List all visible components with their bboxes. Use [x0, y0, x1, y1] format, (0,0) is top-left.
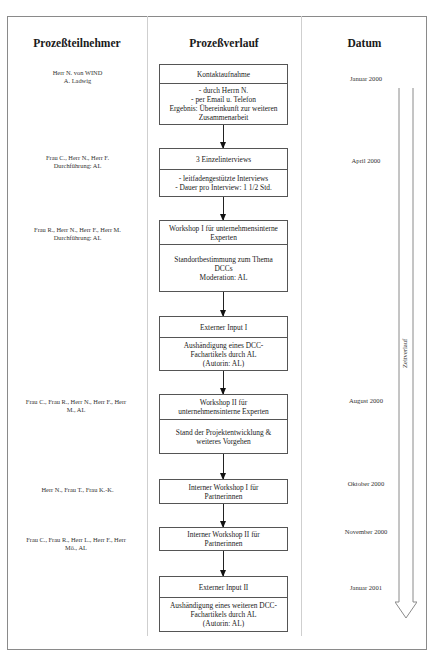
box-title-text: Partnerinnen	[205, 539, 243, 548]
box-title-text: Experten	[210, 233, 237, 242]
flow-arrow-7	[223, 551, 224, 576]
box-detail-line: Zusammenarbeit	[199, 113, 249, 122]
box-title-text: 3 Einzelinterviews	[196, 155, 251, 164]
process-box-workshop-2: Workshop II für unternehmensinterne Expe…	[159, 394, 288, 454]
box-detail-line: Standortbestimmung zum Thema	[174, 255, 272, 264]
box-title-text: Partnerinnen	[205, 492, 243, 501]
column-divider-right	[301, 16, 302, 636]
process-box-interner-workshop-2: Interner Workshop II für Partnerinnen	[159, 527, 288, 551]
box-title: Externer Input I	[160, 317, 287, 338]
box-detail-line: Fachartikels durch AL	[190, 610, 256, 619]
box-details: Aushändigung eines weiteren DCC- Fachart…	[160, 598, 287, 631]
box-title-text: Externer Input II	[199, 583, 249, 592]
box-title-text: Workshop II für	[200, 398, 247, 407]
box-detail-line: Fachartikels durch AL	[190, 350, 256, 359]
participants-step-6: Herr N., Frau T., Frau K.-K.	[20, 486, 135, 494]
box-details: Aushändigung eines DCC- Fachartikels dur…	[160, 338, 287, 370]
box-detail-line: (Autorin: AL)	[203, 359, 244, 368]
box-detail-line: Stand der Projektentwicklung &	[176, 428, 271, 437]
box-details: Standortbestimmung zum Thema DCCs Modera…	[160, 245, 287, 291]
box-details: - leitfadengestützte Interviews - Dauer …	[160, 170, 287, 196]
box-detail-line: Aushändigung eines weiteren DCC-	[170, 601, 277, 610]
column-header-date: Datum	[301, 37, 428, 49]
participants-line: Durchführung: AL	[20, 162, 135, 170]
participants-line: M., AL	[12, 406, 140, 414]
box-detail-line: Aushändigung eines DCC-	[184, 341, 264, 350]
participants-line: Frau C., Herr N., Herr F.	[20, 154, 135, 162]
participants-line: Frau C., Frau R., Herr L., Herr F., Herr	[12, 536, 140, 544]
flow-arrow-3	[223, 292, 224, 316]
box-title: Workshop I für unternehmensinterne Exper…	[160, 221, 287, 245]
flow-arrow-4	[223, 371, 224, 394]
box-detail-line: DCCs	[214, 264, 232, 273]
participants-line: Herr N., Frau T., Frau K.-K.	[20, 486, 135, 494]
timeline-label: Zeitverlauf	[400, 342, 410, 368]
participants-line: Frau C., Frau R., Herr N., Herr F., Herr	[12, 398, 140, 406]
flow-arrow-2	[223, 197, 224, 220]
participants-line: Mö., AL	[12, 544, 140, 552]
box-detail-line: (Autorin: AL)	[203, 619, 244, 628]
box-title: Workshop II für unternehmensinterne Expe…	[160, 395, 287, 420]
column-header-participants: Prozeßteilnehmer	[7, 37, 147, 49]
box-detail-line: - per Email u. Telefon	[191, 95, 256, 104]
participants-step-1: Herr N. von WIND A. Ladwig	[20, 69, 135, 85]
participants-step-5: Frau C., Frau R., Herr N., Herr F., Herr…	[12, 398, 140, 414]
box-detail-line: Moderation: AL	[200, 273, 248, 282]
participants-line: A. Ladwig	[20, 77, 135, 85]
process-box-workshop-1: Workshop I für unternehmensinterne Exper…	[159, 220, 288, 292]
process-box-externer-input-2: Externer Input II Aushändigung eines wei…	[159, 576, 288, 632]
box-title-text: Workshop I für unternehmensinterne	[169, 224, 278, 233]
process-box-externer-input-1: Externer Input I Aushändigung eines DCC-…	[159, 316, 288, 371]
participants-step-7: Frau C., Frau R., Herr L., Herr F., Herr…	[12, 536, 140, 552]
participants-line: Durchführung: AL	[20, 234, 135, 242]
participants-line: Frau R., Herr N., Herr F., Herr M.	[20, 226, 135, 234]
box-detail-line: - leitfadengestützte Interviews	[179, 174, 268, 183]
flow-arrow-6	[223, 504, 224, 527]
process-box-kontaktaufnahme: Kontaktaufnahme - durch Herrn N. - per E…	[159, 64, 288, 125]
participants-line: Herr N. von WIND	[20, 69, 135, 77]
flow-arrow-1	[223, 125, 224, 148]
column-divider-left	[147, 16, 148, 636]
box-title: 3 Einzelinterviews	[160, 149, 287, 170]
box-title-text: Interner Workshop I für	[188, 483, 258, 492]
box-detail-line: - durch Herrn N.	[199, 86, 248, 95]
box-title-text: Externer Input I	[200, 323, 247, 332]
date-step-1: Januar 2000	[306, 75, 426, 83]
box-title-text: Kontaktaufnahme	[197, 70, 250, 79]
flow-arrow-5	[223, 454, 224, 479]
box-details: - durch Herrn N. - per Email u. Telefon …	[160, 84, 287, 124]
box-detail-line: - Dauer pro Interview: 1 1/2 Std.	[175, 183, 272, 192]
box-detail-line: Ergebnis: Übereinkunft zur weiteren	[169, 104, 277, 113]
process-box-interner-workshop-1: Interner Workshop I für Partnerinnen	[159, 479, 288, 504]
box-title: Externer Input II	[160, 577, 287, 598]
box-title: Kontaktaufnahme	[160, 65, 287, 84]
process-box-einzelinterviews: 3 Einzelinterviews - leitfadengestützte …	[159, 148, 288, 197]
box-detail-line: weiteres Vorgehen	[196, 437, 250, 446]
box-title-text: Interner Workshop II für	[187, 530, 260, 539]
participants-step-3: Frau R., Herr N., Herr F., Herr M. Durch…	[20, 226, 135, 242]
column-header-process: Prozeßverlauf	[147, 37, 301, 49]
box-title-text: unternehmensinterne Experten	[178, 407, 269, 416]
participants-step-2: Frau C., Herr N., Herr F. Durchführung: …	[20, 154, 135, 170]
box-details: Stand der Projektentwicklung & weiteres …	[160, 420, 287, 453]
